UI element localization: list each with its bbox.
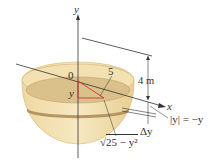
radius-label: 5	[108, 66, 114, 77]
diagram-root: y x 0 5 4 m y Δy |y| = −y √25 − y²	[0, 0, 221, 164]
depth-arrow-down-icon	[146, 96, 150, 100]
top-reference-line	[82, 38, 152, 56]
x-axis-arrow-icon	[158, 103, 166, 108]
slice-y-label: y	[69, 88, 74, 99]
depth-arrow-up-icon	[146, 56, 150, 60]
abs-y-label: |y| = −y	[170, 114, 203, 125]
slice-bottom-line	[122, 111, 156, 117]
x-axis-label: x	[167, 101, 172, 112]
slice-radius-expression: 25 − y²	[106, 134, 138, 148]
origin-label: 0	[68, 70, 74, 81]
depth-label: 4 m	[138, 76, 154, 87]
y-axis-label: y	[74, 4, 79, 15]
delta-y-label: Δy	[140, 126, 153, 137]
slice-radius-label: √25 − y²	[100, 137, 138, 148]
